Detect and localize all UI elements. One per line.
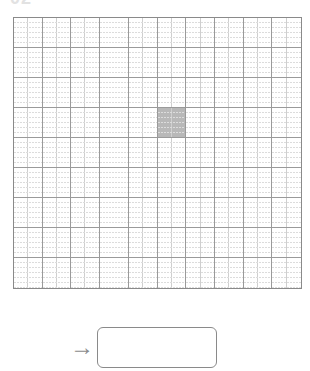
grid-cell <box>100 258 129 288</box>
grid-cell <box>43 108 72 138</box>
grid-cell <box>186 18 215 48</box>
grid-cell <box>272 258 301 288</box>
grid-cell <box>244 168 273 198</box>
grid-cell <box>215 18 244 48</box>
grid-cell <box>129 198 158 228</box>
grid-cell <box>158 78 187 108</box>
grid-cell <box>100 228 129 258</box>
grid-cell <box>215 78 244 108</box>
grid-cell <box>71 108 100 138</box>
grid-cell <box>100 138 129 168</box>
shaded-grid-cell <box>158 108 187 138</box>
grid-cell <box>14 18 43 48</box>
grid-cell <box>71 18 100 48</box>
grid-cell <box>215 108 244 138</box>
grid-cell <box>129 108 158 138</box>
grid-cell <box>186 108 215 138</box>
grid-cell <box>244 138 273 168</box>
grid-cell <box>43 48 72 78</box>
grid-cell <box>215 228 244 258</box>
grid-cell <box>71 48 100 78</box>
arrow-right-icon: → <box>70 333 94 361</box>
grid-cell <box>129 78 158 108</box>
grid-cell <box>272 168 301 198</box>
grid-cell <box>215 168 244 198</box>
grid-cell <box>14 48 43 78</box>
grid-cell <box>244 108 273 138</box>
grid-cell <box>186 48 215 78</box>
grid-cell <box>71 138 100 168</box>
grid-cell <box>71 258 100 288</box>
grid-cell <box>129 228 158 258</box>
grid-cell <box>129 168 158 198</box>
grid-cell <box>272 48 301 78</box>
grid-cell <box>158 198 187 228</box>
grid-cell <box>129 48 158 78</box>
grid-cell <box>43 78 72 108</box>
grid-cell <box>186 198 215 228</box>
grid-cell <box>14 228 43 258</box>
grid-cell <box>14 258 43 288</box>
grid-cell <box>100 18 129 48</box>
grid-cell <box>43 18 72 48</box>
grid-cell <box>43 168 72 198</box>
grid-cell <box>244 18 273 48</box>
page-number-label: 02 <box>10 0 32 9</box>
grid-cell <box>14 108 43 138</box>
grid-cell <box>100 168 129 198</box>
grid-cell <box>215 138 244 168</box>
grid-cell <box>129 138 158 168</box>
grid-cell <box>100 198 129 228</box>
grid-cell <box>158 18 187 48</box>
grid-cell <box>71 198 100 228</box>
grid-cell <box>14 168 43 198</box>
grid-cell <box>158 48 187 78</box>
grid-cell <box>186 258 215 288</box>
grid-cell <box>215 48 244 78</box>
grid-cell <box>272 108 301 138</box>
grid-cell <box>244 48 273 78</box>
grid-cell <box>71 168 100 198</box>
grid-cell <box>244 198 273 228</box>
grid-cell <box>100 78 129 108</box>
grid-cell <box>71 228 100 258</box>
grid-cell <box>100 48 129 78</box>
grid-cell <box>71 78 100 108</box>
grid-cell <box>244 78 273 108</box>
grid-cell <box>100 108 129 138</box>
grid-cell <box>186 168 215 198</box>
grid-cell <box>43 228 72 258</box>
grid-cell <box>129 18 158 48</box>
graph-paper-grid <box>13 17 302 289</box>
grid-cell <box>186 138 215 168</box>
grid-cell <box>129 258 158 288</box>
grid-cell <box>43 138 72 168</box>
grid-cell <box>272 228 301 258</box>
grid-cell <box>272 138 301 168</box>
grid-cell <box>244 228 273 258</box>
grid-cell <box>158 258 187 288</box>
grid-cell <box>272 78 301 108</box>
grid-cell <box>158 228 187 258</box>
grid-cell <box>272 18 301 48</box>
grid-cell <box>244 258 273 288</box>
grid-cell <box>215 198 244 228</box>
answer-input-box[interactable] <box>97 327 217 368</box>
grid-cell <box>43 198 72 228</box>
grid-cell <box>14 198 43 228</box>
grid-cell <box>186 228 215 258</box>
answer-row: → <box>0 327 310 369</box>
grid-cell <box>43 258 72 288</box>
grid-cell <box>215 258 244 288</box>
grid-cell <box>14 138 43 168</box>
grid-cell <box>14 78 43 108</box>
grid-cell <box>158 168 187 198</box>
grid-cell <box>272 198 301 228</box>
grid-cell <box>158 138 187 168</box>
grid-cell <box>186 78 215 108</box>
